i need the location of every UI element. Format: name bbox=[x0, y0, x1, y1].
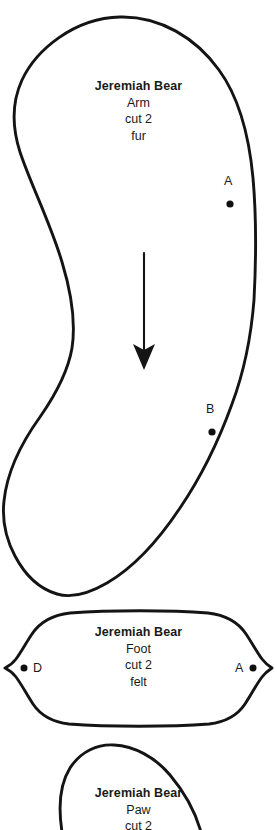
foot-mark-a-dot bbox=[250, 665, 257, 672]
paw-piece-outline bbox=[60, 745, 201, 830]
foot-piece-outline bbox=[5, 611, 272, 727]
foot-mark-d-dot bbox=[21, 665, 28, 672]
arm-mark-b-dot bbox=[208, 428, 215, 435]
pattern-outlines-svg bbox=[0, 0, 277, 830]
arm-piece-outline bbox=[3, 17, 255, 596]
pattern-sheet: Jeremiah Bear Arm cut 2 fur A B Jeremiah… bbox=[0, 0, 277, 830]
arm-mark-a-dot bbox=[226, 200, 233, 207]
